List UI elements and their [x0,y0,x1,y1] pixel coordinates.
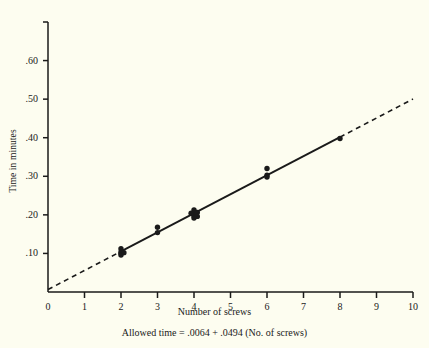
y-tick-label: .50 [14,94,38,104]
plot-canvas [0,0,429,348]
x-axis-ticks [85,292,414,298]
y-tick-label: .40 [14,133,38,143]
scatter-point [264,166,269,171]
scatter-point [155,230,160,235]
scatter-point [264,174,269,179]
scatter-point [188,211,193,216]
scatter-point [155,225,160,230]
y-tick-label: .10 [14,248,38,258]
y-tick-label: .60 [14,56,38,66]
scatter-point [121,250,126,255]
scatter-point [195,214,200,219]
axis-lines [48,22,413,292]
y-tick-label: .30 [14,171,38,181]
x-axis-title: Number of screws [0,306,429,317]
chart-figure: Time in minutes .10.20.30.40.50.60 01234… [0,0,429,348]
regression-equation-caption: Allowed time = .0064 + .0494 (No. of scr… [0,327,429,338]
regression-line-fitted [121,137,340,251]
scatter-point [337,136,342,141]
y-axis-title: Time in minutes [4,96,22,226]
y-tick-label: .20 [14,210,38,220]
